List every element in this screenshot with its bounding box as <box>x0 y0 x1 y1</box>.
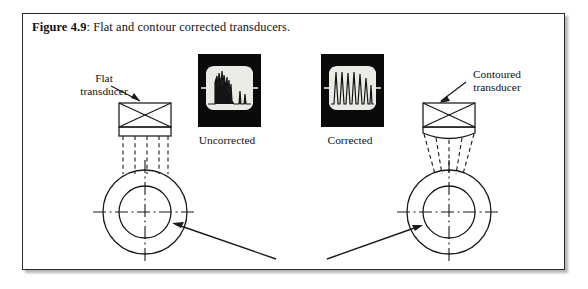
label-contoured-transducer: Contoured transducer <box>449 68 545 93</box>
label-flat-transducer-line2: transducer <box>67 85 141 98</box>
label-uncorrected-panel: Uncorrected <box>177 134 277 147</box>
label-flat-transducer-line1: Flat <box>67 72 141 85</box>
corrected-waveform <box>321 54 384 127</box>
right-bottom-leader-arrowhead <box>412 225 423 231</box>
left-bottom-leader <box>175 224 276 259</box>
contoured-transducer-leader-arrowhead <box>439 96 450 103</box>
left-pipe-centerlines <box>93 160 197 264</box>
label-flat-transducer: Flat transducer <box>67 72 141 97</box>
contoured-transducer-body <box>423 103 475 139</box>
label-contoured-transducer-line2: transducer <box>449 81 545 94</box>
flat-transducer-body <box>119 103 171 136</box>
label-contoured-transducer-line1: Contoured <box>449 68 545 81</box>
scope-panel-uncorrected <box>198 54 261 127</box>
right-pipe-centerlines <box>397 160 501 264</box>
figure-root: Figure 4.9: Flat and contour corrected t… <box>0 0 588 289</box>
figure-drawing-canvas: Flat transducer Contoured transducer Unc… <box>23 14 566 271</box>
figure-frame: Figure 4.9: Flat and contour corrected t… <box>22 13 565 270</box>
right-bottom-leader <box>327 226 420 259</box>
uncorrected-waveform <box>198 54 261 127</box>
scope-panel-corrected <box>321 54 384 127</box>
label-corrected-panel: Corrected <box>300 134 400 147</box>
diagram-linework <box>23 14 566 271</box>
